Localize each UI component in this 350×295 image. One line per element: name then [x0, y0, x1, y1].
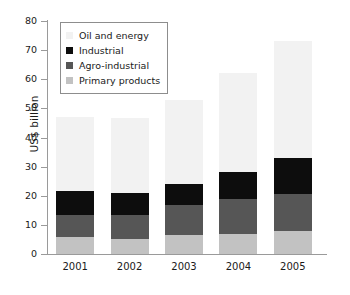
bar-segment[interactable]: [111, 118, 149, 193]
bar-segment[interactable]: [219, 199, 257, 234]
legend-item[interactable]: Industrial: [66, 43, 161, 58]
y-axis-tick: [41, 225, 47, 226]
y-axis-tick-label: 70: [0, 45, 37, 55]
chart-container: US$ billion 01020304050607080 2001200220…: [0, 0, 350, 295]
legend-item-label: Agro-industrial: [79, 61, 149, 71]
legend-item-label: Primary products: [79, 76, 160, 86]
bar-segment[interactable]: [219, 73, 257, 171]
bar-segment[interactable]: [219, 172, 257, 200]
bar-segment[interactable]: [219, 234, 257, 254]
bar-group[interactable]: [165, 21, 203, 254]
x-axis-tick-label: 2002: [103, 261, 157, 272]
y-axis-tick: [41, 196, 47, 197]
y-axis-tick: [41, 167, 47, 168]
y-axis-tick: [41, 108, 47, 109]
x-axis-tick-label: 2004: [211, 261, 265, 272]
legend-item[interactable]: Oil and energy: [66, 28, 161, 43]
y-axis-tick-label: 30: [0, 162, 37, 172]
bar-segment[interactable]: [274, 41, 312, 158]
bar-segment[interactable]: [165, 235, 203, 254]
bar-segment[interactable]: [111, 193, 149, 215]
y-axis-tick: [41, 50, 47, 51]
y-axis-tick-label: 80: [0, 16, 37, 26]
legend-swatch-icon: [66, 32, 73, 39]
x-axis-tick-label: 2001: [48, 261, 102, 272]
x-axis-tick-label: 2005: [266, 261, 320, 272]
x-axis-tick-label: 2003: [157, 261, 211, 272]
y-axis-tick: [41, 138, 47, 139]
bar-segment[interactable]: [111, 215, 149, 239]
chart-legend: Oil and energyIndustrialAgro-industrialP…: [60, 22, 168, 94]
legend-item[interactable]: Agro-industrial: [66, 58, 161, 73]
bar-segment[interactable]: [165, 205, 203, 235]
y-axis-tick-label: 50: [0, 103, 37, 113]
y-axis-tick-label: 40: [0, 133, 37, 143]
bar-group[interactable]: [274, 21, 312, 254]
y-axis-tick: [41, 254, 47, 255]
bar-segment[interactable]: [165, 100, 203, 184]
bar-segment[interactable]: [274, 231, 312, 254]
legend-swatch-icon: [66, 77, 73, 84]
y-axis-tick: [41, 21, 47, 22]
bar-segment[interactable]: [111, 239, 149, 254]
bar-segment[interactable]: [56, 215, 94, 237]
x-axis-line: [41, 254, 327, 255]
y-axis-tick-label: 0: [0, 249, 37, 259]
bar-group[interactable]: [219, 21, 257, 254]
legend-swatch-icon: [66, 62, 73, 69]
bar-segment[interactable]: [56, 191, 94, 215]
bar-segment[interactable]: [274, 158, 312, 194]
y-axis-tick-label: 10: [0, 220, 37, 230]
legend-item-label: Oil and energy: [79, 31, 149, 41]
legend-swatch-icon: [66, 47, 73, 54]
legend-item-label: Industrial: [79, 46, 124, 56]
y-axis-tick-label: 20: [0, 191, 37, 201]
bar-segment[interactable]: [56, 117, 94, 191]
bar-segment[interactable]: [56, 237, 94, 254]
bar-segment[interactable]: [274, 194, 312, 231]
y-axis-tick: [41, 79, 47, 80]
y-axis-tick-label: 60: [0, 74, 37, 84]
bar-segment[interactable]: [165, 184, 203, 206]
legend-item[interactable]: Primary products: [66, 73, 161, 88]
